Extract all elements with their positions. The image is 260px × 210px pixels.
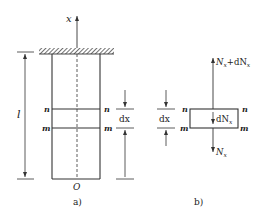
x-axis-label: x	[66, 13, 72, 24]
dx-label: dx	[119, 114, 130, 124]
section-m-right-label: m	[104, 123, 112, 133]
b-section-m-right-label: m	[240, 123, 248, 133]
figure-a: x n n m m l dx O a)	[17, 13, 134, 207]
diagram-canvas: x n n m m l dx O a)	[0, 0, 260, 210]
section-m-left-label: m	[42, 123, 50, 133]
bottom-force-label: Nx	[215, 147, 227, 158]
top-force-label: Nx+dNx	[215, 57, 251, 68]
fixed-support	[39, 48, 114, 54]
inner-force-label: dNx	[216, 114, 233, 125]
section-n-right-label: n	[104, 104, 110, 114]
b-section-m-left-label: m	[180, 123, 188, 133]
b-section-n-right-label: n	[242, 104, 248, 114]
caption-a: a)	[73, 197, 82, 207]
caption-b: b)	[194, 197, 203, 207]
b-dx-label: dx	[159, 114, 170, 124]
length-label: l	[17, 108, 21, 121]
origin-label: O	[73, 182, 81, 192]
b-section-n-left-label: n	[182, 104, 188, 114]
figure-b: n n m m Nx+dNx dNx Nx dx b)	[157, 57, 251, 207]
section-n-left-label: n	[44, 104, 50, 114]
